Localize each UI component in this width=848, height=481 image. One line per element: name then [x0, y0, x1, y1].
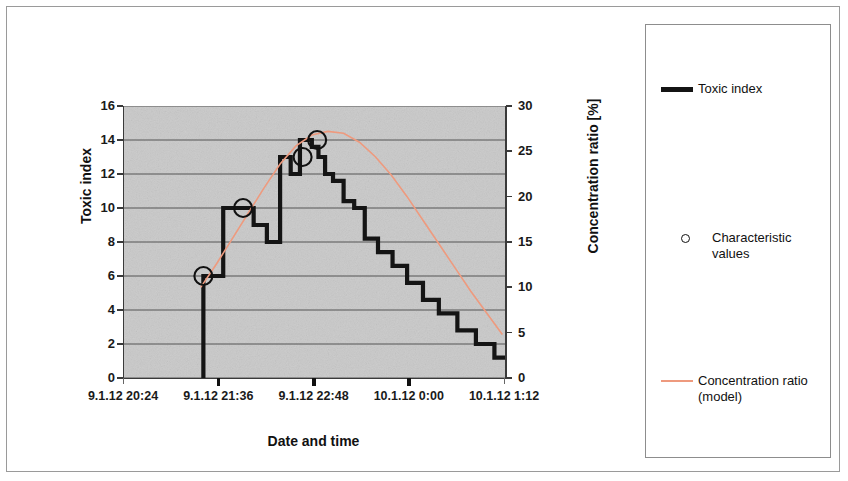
x-axis-tickmark	[504, 378, 506, 384]
thin-line-swatch-icon	[660, 373, 694, 389]
legend-item-toxic-index: Toxic index	[660, 81, 762, 97]
y-axis-left-title: Toxic index	[78, 106, 94, 266]
y-axis-left-tickmark	[117, 343, 123, 345]
y-axis-right-tick-label: 25	[518, 144, 558, 157]
y-axis-right-tick-label: 10	[518, 280, 558, 293]
legend-label-toxic-index: Toxic index	[698, 81, 762, 97]
y-axis-right-tick-label: 20	[518, 190, 558, 203]
y-axis-right-tickmark	[506, 150, 512, 152]
x-axis-tick-label: 10.1.12 1:12	[449, 390, 559, 403]
plot-canvas	[124, 106, 505, 378]
x-axis-tickmark	[312, 378, 316, 386]
y-axis-right-tick-label: 0	[518, 371, 558, 384]
x-axis-tick-label: 9.1.12 20:24	[68, 390, 178, 403]
open-circle-swatch-icon	[668, 230, 702, 246]
y-axis-left-tickmark	[117, 105, 123, 107]
x-axis-tickmark	[123, 378, 125, 384]
legend-label-concentration-ratio: Concentration ratio (model)	[698, 373, 808, 405]
y-axis-left-tickmark	[117, 309, 123, 311]
y-axis-right-tickmark	[506, 377, 512, 379]
chart-figure: 0246810121416 051015202530 9.1.12 20:249…	[18, 18, 618, 458]
y-axis-left-tick-label: 2	[75, 337, 115, 350]
y-axis-left-tickmark	[117, 207, 123, 209]
thick-line-swatch-icon	[660, 81, 694, 97]
y-axis-left-tick-label: 0	[75, 371, 115, 384]
y-axis-right-tickmark	[506, 196, 512, 198]
y-axis-left-tickmark	[117, 139, 123, 141]
y-axis-right-tickmark	[506, 241, 512, 243]
plot-area	[123, 106, 505, 379]
y-axis-left-tickmark	[117, 275, 123, 277]
x-axis-tickmark	[407, 378, 411, 386]
y-axis-right-tick-label: 15	[518, 235, 558, 248]
y-axis-right-tickmark	[506, 332, 512, 334]
x-axis-tick-label: 9.1.12 22:48	[259, 390, 369, 403]
x-axis-tick-label: 10.1.12 0:00	[354, 390, 464, 403]
x-axis-title: Date and time	[123, 433, 504, 449]
y-axis-right-tickmark	[506, 105, 512, 107]
x-axis-tickmark	[217, 378, 221, 386]
legend-item-concentration-ratio: Concentration ratio (model)	[660, 373, 808, 405]
y-axis-left-tick-label: 4	[75, 303, 115, 316]
y-axis-right-tick-label: 30	[518, 99, 558, 112]
legend-item-characteristic-values: Characteristic values	[660, 230, 830, 262]
y-axis-left-tickmark	[117, 173, 123, 175]
y-axis-right-title: Concentration ratio [%]	[585, 71, 601, 281]
legend: Toxic index Characteristic values Concen…	[645, 24, 831, 458]
y-axis-right-tickmark	[506, 286, 512, 288]
y-axis-left-tick-label: 6	[75, 269, 115, 282]
x-axis-tick-label: 9.1.12 21:36	[163, 390, 273, 403]
y-axis-right-tick-label: 5	[518, 326, 558, 339]
legend-label-characteristic-values: Characteristic values	[712, 230, 830, 262]
screenshot-page: 0246810121416 051015202530 9.1.12 20:249…	[0, 0, 848, 481]
y-axis-left-tickmark	[117, 241, 123, 243]
y-axis-right-spine	[505, 106, 507, 379]
